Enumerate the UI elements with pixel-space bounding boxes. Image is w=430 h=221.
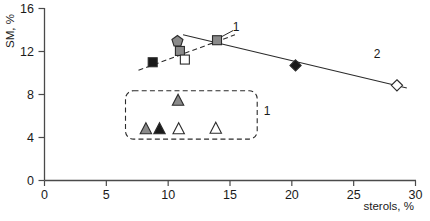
- data-point-open-triangle: [210, 122, 221, 133]
- group-2-label: 2: [374, 47, 381, 61]
- data-point-gray-square: [213, 36, 222, 45]
- data-point-filled-square: [148, 58, 157, 67]
- tick-labels: 0510152025300481216: [20, 2, 422, 202]
- data-point-open-diamond: [391, 80, 402, 91]
- x-axis-title: sterols, %: [364, 200, 415, 212]
- data-point-gray-triangle: [140, 123, 151, 134]
- data-point-filled-diamond: [290, 60, 301, 71]
- x-tick-label: 10: [161, 188, 175, 202]
- x-tick-label: 0: [41, 188, 48, 202]
- y-axis-title: SM, %: [4, 14, 16, 48]
- y-tick-label: 12: [20, 45, 34, 59]
- y-tick-label: 0: [27, 174, 34, 188]
- trend-lines-layer: [126, 31, 407, 140]
- group-1-label: 1: [233, 20, 240, 34]
- scatter-plot: 0510152025300481216 121 sterols, % SM, %: [0, 0, 430, 221]
- x-tick-label: 25: [347, 188, 361, 202]
- y-tick-label: 8: [27, 88, 34, 102]
- data-point-open-triangle: [173, 123, 184, 134]
- y-tick-label: 16: [20, 2, 34, 16]
- x-tick-label: 5: [103, 188, 110, 202]
- tick-marks: [39, 9, 416, 187]
- y-tick-label: 4: [27, 131, 34, 145]
- annotations-layer: 121: [233, 20, 381, 118]
- data-point-open-square: [180, 55, 189, 64]
- data-point-gray-square: [175, 46, 184, 55]
- data-point-filled-triangle: [154, 123, 165, 134]
- chart-container: 0510152025300481216 121 sterols, % SM, %: [0, 0, 430, 221]
- data-markers-layer: [140, 35, 402, 133]
- data-point-gray-pentagon: [172, 35, 183, 45]
- data-point-gray-triangle: [172, 94, 183, 105]
- x-tick-label: 20: [285, 188, 299, 202]
- axis-layer: [45, 8, 417, 181]
- x-tick-label: 15: [223, 188, 237, 202]
- cluster-1-label: 1: [264, 104, 271, 118]
